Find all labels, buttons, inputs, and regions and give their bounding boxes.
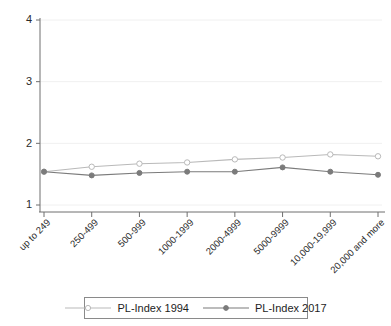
x-tick-label: 10,000-19,999 xyxy=(288,217,339,268)
data-point xyxy=(185,169,190,174)
x-tick-label: 1000-1999 xyxy=(156,217,196,257)
data-point xyxy=(328,169,333,174)
y-tick-label: 4 xyxy=(26,13,32,25)
data-point xyxy=(137,161,142,166)
data-point xyxy=(328,152,333,157)
data-point xyxy=(375,154,380,159)
legend-label-2017: PL-Index 2017 xyxy=(255,302,327,314)
x-tick-label: up to 249 xyxy=(17,217,53,253)
data-point xyxy=(184,160,189,165)
legend-item-1994[interactable]: PL-Index 1994 xyxy=(65,302,189,314)
data-point xyxy=(232,169,237,174)
data-point xyxy=(137,170,142,175)
data-point xyxy=(376,172,381,177)
y-tick-label: 1 xyxy=(26,198,32,210)
series-line-1994 xyxy=(44,154,378,171)
legend-swatch-1994 xyxy=(65,302,111,314)
chart-legend: PL-Index 1994 PL-Index 2017 xyxy=(84,297,308,319)
line-chart: 1234up to 249250-499500-9991000-19992000… xyxy=(0,0,391,292)
data-point xyxy=(280,155,285,160)
legend-swatch-2017 xyxy=(203,302,249,314)
chart-container: 1234up to 249250-499500-9991000-19992000… xyxy=(0,0,391,326)
x-tick-label: 2000-4999 xyxy=(203,217,243,257)
data-point xyxy=(42,169,47,174)
data-point xyxy=(232,157,237,162)
data-point xyxy=(89,164,94,169)
data-point xyxy=(280,165,285,170)
y-tick-label: 2 xyxy=(26,137,32,149)
data-point xyxy=(89,173,94,178)
legend-item-2017[interactable]: PL-Index 2017 xyxy=(203,302,327,314)
legend-label-1994: PL-Index 1994 xyxy=(117,302,189,314)
x-tick-label: 250-499 xyxy=(68,217,100,249)
y-tick-label: 3 xyxy=(26,75,32,87)
x-tick-label: 5000-9999 xyxy=(251,217,291,257)
x-tick-label: 500-999 xyxy=(115,217,147,249)
